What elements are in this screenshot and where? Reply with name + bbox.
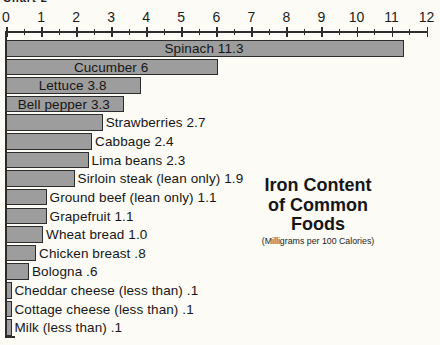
x-axis-major-tick: [427, 27, 429, 37]
x-axis-major-tick: [111, 27, 113, 37]
chart-subtitle: (Milligrams per 100 Calories): [237, 236, 399, 246]
bar-ground-beef-lean-only: [6, 189, 47, 206]
x-axis-tick-label: 1: [29, 9, 53, 25]
bar-milk-less-than: [6, 319, 12, 336]
x-axis-minor-tick: [94, 29, 95, 35]
x-axis-tick-label: 11: [380, 9, 404, 25]
x-axis-major-tick: [286, 27, 288, 37]
y-axis-foot: [5, 336, 15, 338]
bar-label: Wheat bread 1.0: [46, 227, 147, 242]
x-axis-minor-tick: [24, 29, 25, 35]
bar-label: Cucumber 6: [6, 60, 216, 75]
bar-label: Lettuce 3.8: [6, 78, 139, 93]
x-axis-minor-tick: [129, 29, 130, 35]
bar-grapefruit: [6, 208, 47, 225]
x-axis-major-tick: [6, 27, 8, 37]
x-axis-major-tick: [41, 27, 43, 37]
x-axis-major-tick: [392, 27, 394, 37]
bar-chicken-breast: [6, 245, 36, 262]
x-axis-minor-tick: [304, 29, 305, 35]
bar-label: Grapefruit 1.1: [50, 209, 134, 224]
x-axis-major-tick: [181, 27, 183, 37]
x-axis-tick-label: 4: [134, 9, 158, 25]
bar-label: Cabbage 2.4: [95, 134, 173, 149]
x-axis-tick-label: 3: [99, 9, 123, 25]
bar-lima-beans: [6, 152, 89, 169]
x-axis-minor-tick: [339, 29, 340, 35]
bar-bologna: [6, 263, 29, 280]
bar-sirloin-steak-lean-only: [6, 170, 75, 187]
x-axis-major-tick: [216, 27, 218, 37]
bar-wheat-bread: [6, 226, 43, 243]
x-axis-minor-tick: [164, 29, 165, 35]
x-axis-tick-label: 5: [169, 9, 193, 25]
chart-title-line-2: of Common: [237, 196, 399, 216]
chart-title-line-3: Foods: [237, 215, 399, 235]
x-axis-minor-tick: [199, 29, 200, 35]
x-axis-major-tick: [251, 27, 253, 37]
bar-cabbage: [6, 133, 92, 150]
page-label: Chart 2: [3, 0, 48, 4]
x-axis-tick-label: 8: [274, 9, 298, 25]
x-axis-minor-tick: [374, 29, 375, 35]
bar-label: Chicken breast .8: [39, 246, 146, 261]
bar-label: Cottage cheese (less than) .1: [15, 302, 194, 317]
bar-label: Cheddar cheese (less than) .1: [15, 283, 199, 298]
bar-label: Ground beef (lean only) 1.1: [50, 190, 217, 205]
bar-label: Strawberries 2.7: [106, 115, 206, 130]
x-axis-tick-label: 12: [415, 9, 439, 25]
x-axis-major-tick: [76, 27, 78, 37]
bar-label: Bologna .6: [32, 264, 98, 279]
x-axis-tick-label: 7: [239, 9, 263, 25]
chart-title-line-1: Iron Content: [237, 176, 399, 196]
bar-label: Sirloin steak (lean only) 1.9: [78, 171, 244, 186]
x-axis-major-tick: [357, 27, 359, 37]
x-axis-major-tick: [321, 27, 323, 37]
x-axis-tick-label: 9: [309, 9, 333, 25]
bar-cottage-cheese-less-than: [6, 301, 12, 318]
bar-cheddar-cheese-less-than: [6, 282, 12, 299]
x-axis-tick-label: 0: [0, 9, 18, 25]
x-axis-major-tick: [146, 27, 148, 37]
x-axis-minor-tick: [269, 29, 270, 35]
x-axis-minor-tick: [59, 29, 60, 35]
bar-strawberries: [6, 114, 103, 131]
x-axis-minor-tick: [409, 29, 410, 35]
bar-label: Milk (less than) .1: [15, 320, 123, 335]
x-axis-tick-label: 2: [64, 9, 88, 25]
bar-label: Spinach 11.3: [6, 41, 402, 56]
bar-label: Lima beans 2.3: [92, 153, 186, 168]
chart-page: Chart 2 0123456789101112 Spinach 11.3Cuc…: [0, 0, 440, 345]
x-axis-tick-label: 6: [204, 9, 228, 25]
bar-label: Bell pepper 3.3: [6, 97, 122, 112]
x-axis-minor-tick: [234, 29, 235, 35]
x-axis-tick-label: 10: [345, 9, 369, 25]
chart-title-block: Iron Content of Common Foods (Milligrams…: [237, 176, 399, 246]
